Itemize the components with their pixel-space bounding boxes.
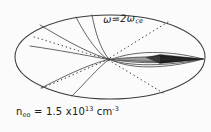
density-exponent: 13	[85, 105, 93, 113]
resonance-subscript-ce: ce	[135, 17, 143, 25]
electron-density-label: neo = 1.5 x1013 cm-3	[16, 105, 119, 119]
density-base: 10	[72, 106, 85, 117]
density-subscript-eo: eo	[23, 111, 31, 119]
density-equals: =	[34, 106, 43, 117]
figure-container: ω=2ωce neo = 1.5 x1013 cm-3	[0, 0, 211, 132]
density-mantissa: 1.5 x	[46, 106, 72, 117]
resonance-dotted-lower-left	[42, 60, 107, 88]
resonance-condition-label: ω=2ωce	[103, 12, 144, 27]
density-unit-base: cm	[97, 106, 113, 117]
density-unit-exponent: -3	[112, 105, 118, 113]
